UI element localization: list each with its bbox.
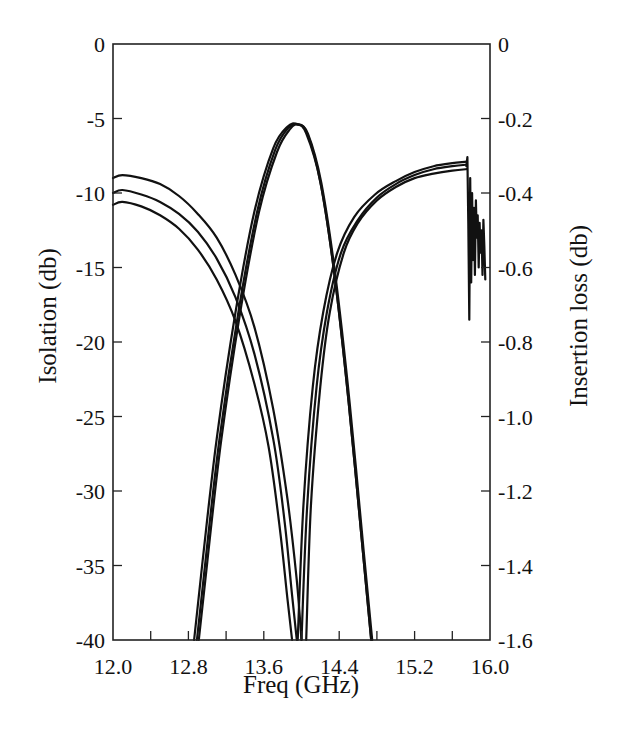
x-axis-title: Freq (GHz) (243, 671, 359, 699)
y-tick-label: -20 (76, 330, 105, 355)
y2-tick-label: -0.4 (498, 181, 533, 206)
y-tick-label: -10 (76, 181, 105, 206)
left-y-axis-title: Isolation (db) (34, 248, 62, 383)
isolation-insertion-loss-chart: 0-5-10-15-20-25-30-35-40 0-0.2-0.4-0.6-0… (0, 0, 621, 750)
y2-tick-label: -0.2 (498, 107, 533, 132)
y-tick-label: -40 (76, 628, 105, 653)
x-tick-label: 15.2 (395, 654, 434, 679)
y-tick-label: -25 (76, 405, 105, 430)
x-tick-label: 16.0 (471, 654, 510, 679)
x-tick-label: 12.0 (94, 654, 133, 679)
right-axis-tick-labels: 0-0.2-0.4-0.6-0.8-1.0-1.2-1.4-1.6 (498, 32, 533, 653)
y-tick-label: -30 (76, 479, 105, 504)
x-tick-label: 12.8 (169, 654, 208, 679)
y2-tick-label: -1.2 (498, 479, 533, 504)
y2-tick-label: -1.4 (498, 554, 533, 579)
y2-tick-label: -1.0 (498, 405, 533, 430)
y2-tick-label: -1.6 (498, 628, 533, 653)
y-tick-label: 0 (94, 32, 105, 57)
y-tick-label: -5 (87, 107, 105, 132)
right-y-axis-title: Insertion loss (db) (565, 225, 593, 407)
y-tick-label: -35 (76, 554, 105, 579)
y-tick-label: -15 (76, 256, 105, 281)
y2-tick-label: -0.8 (498, 330, 533, 355)
y2-tick-label: 0 (498, 32, 509, 57)
y2-tick-label: -0.6 (498, 256, 533, 281)
